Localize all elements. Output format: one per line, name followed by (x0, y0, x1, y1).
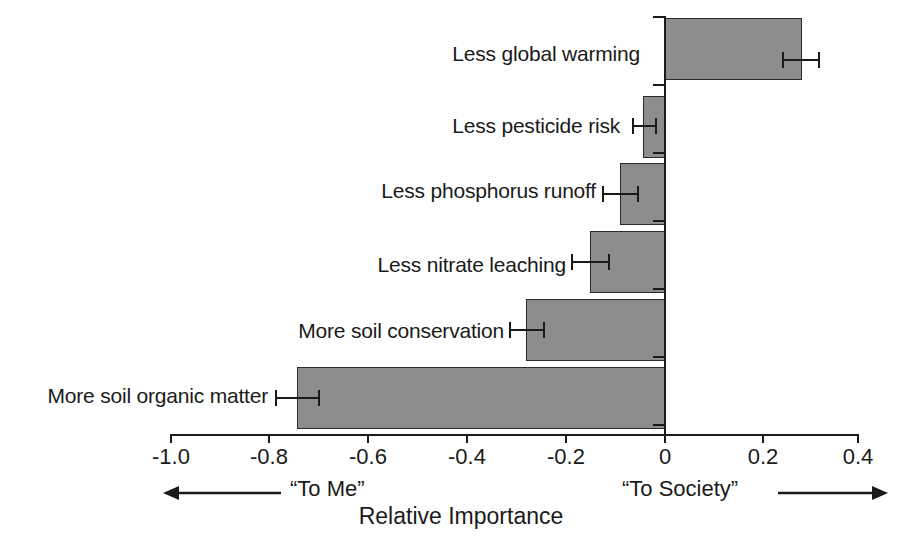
plot-area: -1.0 -0.8 -0.6 -0.4 -0.2 0 0.2 0.4 “To M… (0, 0, 903, 546)
x-tick-4 (565, 434, 567, 443)
x-tick-2 (367, 434, 369, 443)
chart-figure: Less global warming Less pesticide risk … (0, 0, 903, 546)
x-tick-3 (466, 434, 468, 443)
error-bar-cap-2-high (637, 186, 639, 202)
y-tick-6 (653, 424, 664, 426)
left-arrow-icon (163, 481, 283, 505)
error-bar-cap-3-high (608, 254, 610, 270)
bar-more-soil-conservation (526, 299, 665, 361)
y-tick-2 (653, 152, 664, 154)
error-bar-cap-3-low (571, 254, 573, 270)
x-tick-7 (857, 434, 859, 443)
x-tick-label-7: 0.4 (818, 446, 898, 468)
right-annotation-label: “To Society” (622, 478, 738, 500)
left-annotation-label: “To Me” (290, 478, 365, 500)
y-tick-1 (653, 84, 664, 86)
y-tick-3 (653, 220, 664, 222)
x-tick-label-5: 0 (625, 446, 705, 468)
x-tick-1 (268, 434, 270, 443)
x-tick-label-0: -1.0 (131, 446, 211, 468)
x-tick-6 (762, 434, 764, 443)
right-arrow-icon (778, 481, 888, 505)
bar-less-pesticide-risk (643, 96, 665, 158)
x-tick-label-4: -0.2 (526, 446, 606, 468)
error-bar-1 (632, 125, 657, 127)
error-bar-cap-0-high (818, 52, 820, 68)
error-bar-5 (275, 397, 320, 399)
x-tick-label-1: -0.8 (229, 446, 309, 468)
error-bar-cap-2-low (602, 186, 604, 202)
error-bar-cap-4-high (543, 322, 545, 338)
bar-more-soil-organic-matter (297, 367, 665, 429)
bar-less-global-warming (664, 18, 802, 80)
error-bar-3 (571, 261, 610, 263)
x-tick-label-6: 0.2 (723, 446, 803, 468)
error-bar-cap-1-high (655, 118, 657, 134)
error-bar-cap-1-low (632, 118, 634, 134)
y-tick-4 (653, 288, 664, 290)
x-tick-0 (170, 434, 172, 443)
x-tick-5 (664, 434, 666, 443)
error-bar-2 (602, 193, 639, 195)
error-bar-cap-0-low (782, 52, 784, 68)
x-tick-label-2: -0.6 (328, 446, 408, 468)
x-tick-label-3: -0.4 (427, 446, 507, 468)
error-bar-cap-5-high (318, 390, 320, 406)
x-axis-title: Relative Importance (351, 505, 571, 528)
error-bar-0 (782, 59, 820, 61)
error-bar-4 (509, 329, 545, 331)
error-bar-cap-5-low (275, 390, 277, 406)
error-bar-cap-4-low (509, 322, 511, 338)
y-tick-5 (653, 356, 664, 358)
y-tick-0 (653, 16, 664, 18)
zero-axis-line (664, 16, 666, 434)
x-axis-line (170, 434, 859, 436)
